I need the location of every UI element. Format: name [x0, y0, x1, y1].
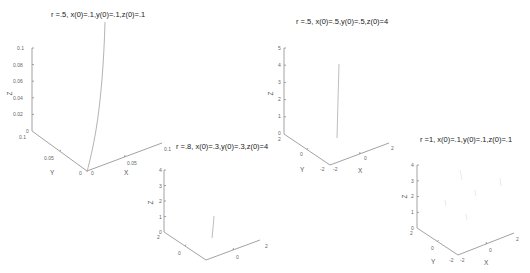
plot-2-zlabel: Z	[267, 92, 274, 96]
plot-4-zticks: 3	[411, 178, 414, 184]
plot-1-axes	[32, 48, 162, 171]
plot-4-yticks: -2	[449, 257, 453, 263]
plot-1-ylabel: Y	[50, 169, 54, 176]
plot-4-yticks: 0	[431, 245, 434, 251]
plot-2-xticks: -2	[333, 166, 337, 172]
plot-1-title: r =.5, x(0)=.1,y(0)=.1,z(0)=.1	[51, 10, 145, 19]
plot-2-zticks: 1	[278, 113, 281, 119]
plot-4-xticks: 2	[516, 236, 519, 242]
plot-1-yticks: 0.1	[19, 134, 26, 140]
plot-3-yticks: 0	[178, 250, 181, 256]
plot-4-xticks: 0	[489, 247, 492, 253]
plot-1-yticks: 0	[79, 170, 82, 176]
plot-1-xlabel: X	[124, 169, 128, 176]
plot-3-axes	[164, 170, 260, 260]
plot-2-yticks: 2	[278, 136, 281, 142]
plot-4-zlabel: Z	[401, 195, 408, 199]
plot-1-xticks: 0	[91, 170, 94, 176]
plot-4-zticks: 2	[411, 193, 414, 199]
plot-2-trajectory	[337, 64, 339, 138]
plot-3-zticks: 3	[159, 183, 162, 189]
plot-4-zticks: 4	[411, 162, 414, 168]
plot-1-zlabel: Z	[6, 92, 13, 96]
plot-1-xticks: 0.05	[127, 160, 137, 166]
plot-2-xlabel: X	[358, 167, 362, 174]
plot-3-xticks: 2	[265, 243, 268, 249]
plot-2-axes	[284, 48, 389, 165]
plot-4-ylabel: Y	[431, 258, 435, 265]
plot-3-title: r =.8, x(0)=.3,y(0)=.3,z(0)=4	[176, 142, 268, 151]
plot-2-yticks: -2	[320, 166, 324, 172]
plot-4-xlabel: X	[484, 259, 488, 266]
plot-3-yticks: 2	[157, 234, 160, 240]
plot-3-zticks: 1	[159, 214, 162, 220]
plot-3-trajectory	[212, 216, 214, 238]
plot-4-axes	[417, 165, 514, 255]
plot-1-xticks: 0.1	[164, 146, 171, 152]
plot-1-zticks: 0	[26, 128, 29, 134]
plot-4-title: r =1, x(0)=.1,y(0)=.1,z(0)=.1	[420, 135, 512, 144]
plot-4-zticks: 1	[411, 209, 414, 215]
plot-4-yticks: 2	[410, 230, 413, 236]
plot-1-zticks: 0.1	[17, 45, 24, 51]
plot-2-title: r =.5, x(0)=.5,y(0)=.5,z(0)=4	[296, 17, 388, 26]
plot-1-zticks: 0.02	[13, 111, 23, 117]
plot-1-zticks: 0.04	[13, 95, 23, 101]
plot-1-zticks: 0.08	[13, 62, 23, 68]
plot-3-zticks: 4	[159, 167, 162, 173]
plot-2-yticks: 0	[300, 151, 303, 157]
plot-4-trajectory	[445, 170, 501, 220]
plot-2-zticks: 3	[278, 79, 281, 85]
plot-1-trajectory	[87, 22, 105, 172]
plot-2-zticks: 4	[278, 62, 281, 68]
plot-3-zticks: 2	[159, 198, 162, 204]
plot-3-zlabel: Z	[147, 201, 154, 205]
plot-1-zticks: 0.06	[13, 78, 23, 84]
plot-2-xticks: 0	[364, 155, 367, 161]
plot-2-zticks: 5	[278, 45, 281, 51]
plot-1-yticks: 0.05	[44, 155, 54, 161]
plot-4-xticks: -2	[460, 257, 464, 263]
plot-2-xticks: 2	[391, 145, 394, 151]
plot-3-xticks: 0	[236, 254, 239, 260]
plot-2-ylabel: Y	[300, 166, 304, 173]
plot-2-zticks: 2	[278, 96, 281, 102]
